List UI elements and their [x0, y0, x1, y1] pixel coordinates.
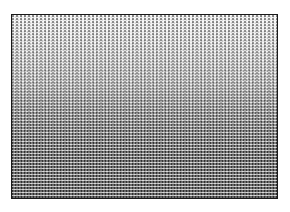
speckle-dither-pattern — [12, 15, 277, 198]
image-frame — [11, 14, 278, 199]
